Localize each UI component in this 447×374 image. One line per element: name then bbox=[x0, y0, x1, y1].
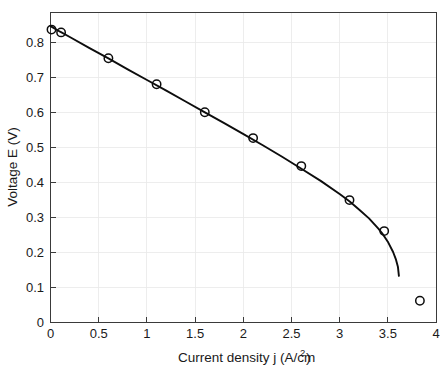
x-tick-labels: 0 0.5 1 1.5 2 2.5 3 3.5 4 bbox=[47, 326, 440, 341]
x-axis-title-tail: ) bbox=[306, 350, 311, 365]
y-tick-labels: 0 0.1 0.2 0.3 0.4 0.5 0.6 0.7 0.8 bbox=[26, 35, 44, 330]
y-tick-label: 0.3 bbox=[26, 210, 44, 225]
chart-background bbox=[0, 0, 447, 374]
chart-svg: 0 0.5 1 1.5 2 2.5 3 3.5 4 0 0.1 0.2 0.3 … bbox=[0, 0, 447, 374]
y-tick-label: 0.8 bbox=[26, 35, 44, 50]
y-tick-label: 0 bbox=[37, 315, 44, 330]
x-axis-title: Current density j (A/cm 2 ) bbox=[178, 347, 315, 365]
y-tick-label: 0.5 bbox=[26, 140, 44, 155]
y-axis-title: Voltage E (V) bbox=[5, 127, 20, 207]
x-tick-label: 2.5 bbox=[282, 326, 300, 341]
y-tick-label: 0.6 bbox=[26, 105, 44, 120]
x-tick-label: 2 bbox=[240, 326, 247, 341]
y-tick-label: 0.7 bbox=[26, 70, 44, 85]
figure-container: 0 0.5 1 1.5 2 2.5 3 3.5 4 0 0.1 0.2 0.3 … bbox=[0, 0, 447, 374]
y-tick-label: 0.4 bbox=[26, 175, 44, 190]
x-tick-label: 4 bbox=[432, 326, 439, 341]
x-tick-label: 1 bbox=[143, 326, 150, 341]
x-axis-title-superscript: 2 bbox=[300, 347, 305, 358]
x-axis-title-base: Current density j (A/cm bbox=[178, 350, 315, 365]
y-tick-label: 0.2 bbox=[26, 245, 44, 260]
x-tick-label: 0 bbox=[47, 326, 54, 341]
x-tick-label: 3 bbox=[336, 326, 343, 341]
y-tick-label: 0.1 bbox=[26, 280, 44, 295]
x-tick-label: 1.5 bbox=[186, 326, 204, 341]
x-tick-label: 3.5 bbox=[379, 326, 397, 341]
x-tick-label: 0.5 bbox=[90, 326, 108, 341]
